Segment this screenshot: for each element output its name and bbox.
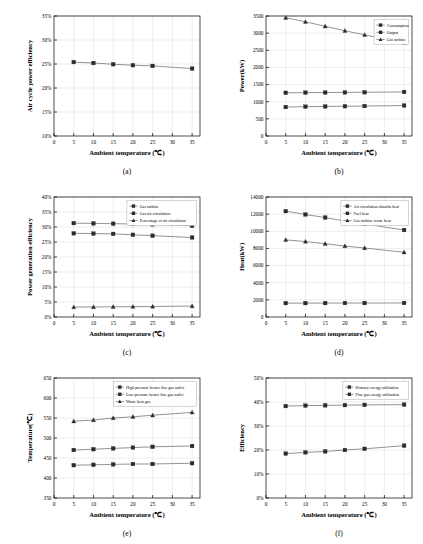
y-tick-label: 5% [44, 299, 52, 305]
x-axis: 05101520253035 [265, 314, 407, 326]
x-tick-label: 15 [323, 139, 329, 145]
y-tick-label: 30% [254, 423, 264, 429]
x-tick-label: 20 [130, 501, 136, 507]
legend-label: Waste heat gas [126, 399, 151, 404]
data-point [363, 104, 367, 108]
data-point [304, 105, 308, 109]
data-point [111, 463, 115, 467]
subplot-a: 0510152025303510%15%20%25%30%35%Ambient … [0, 0, 211, 181]
data-point [343, 448, 347, 452]
y-axis: 0500100015002000250030003500 [253, 13, 269, 139]
y-tick-label: 40% [254, 399, 264, 405]
y-tick-label: 10000 [250, 228, 264, 234]
figure-grid: 0510152025303510%15%20%25%30%35%Ambient … [0, 0, 423, 544]
x-tick-label: 15 [323, 501, 329, 507]
x-axis: 05101520253035 [265, 133, 407, 145]
y-tick-label: 1000 [253, 99, 264, 105]
legend-marker [118, 385, 121, 388]
data-point [402, 301, 406, 305]
x-tick-label: 0 [53, 320, 56, 326]
data-point [323, 91, 327, 95]
data-point [190, 67, 194, 71]
data-point [402, 104, 406, 108]
x-axis: 05101520253035 [53, 133, 195, 145]
legend: Gas turbineGas-air circulationPercentage… [127, 201, 197, 226]
legend-label: Primary energy utilization [356, 385, 399, 390]
y-tick-label: 25% [42, 239, 52, 245]
x-tick-label: 5 [284, 139, 287, 145]
y-tick-label: 1500 [253, 81, 264, 87]
x-tick-label: 0 [53, 501, 56, 507]
subplot-b: 0510152025303505001000150020002500300035… [212, 0, 423, 181]
data-point [402, 90, 406, 94]
series-3 [72, 304, 195, 309]
legend-label: Fuel heat [354, 211, 370, 216]
legend-label: Air circulation absorbs heat [354, 204, 400, 209]
subplot-d: 0510152025303502000400060008000100001200… [212, 181, 423, 362]
x-tick-label: 0 [265, 320, 268, 326]
legend: Primary energy utilizationFlue gas energ… [343, 382, 409, 400]
y-tick-label: 10% [42, 133, 52, 139]
data-point [151, 64, 155, 68]
data-point [284, 238, 288, 242]
data-point [284, 105, 288, 109]
legend: Air circulation absorbs heatFuel heatGas… [341, 201, 409, 226]
data-point [402, 228, 406, 232]
x-tick-label: 30 [170, 501, 176, 507]
legend-marker [118, 393, 121, 396]
y-tick-label: 10% [254, 471, 264, 477]
legend-marker [379, 31, 382, 34]
x-axis-title: Ambient temperature (℃) [301, 330, 376, 338]
x-tick-label: 10 [303, 139, 309, 145]
subplot-e: 05101520253035350400450500550600650High … [0, 362, 211, 543]
data-point [284, 209, 288, 213]
y-axis-title: Temperature(℃) [26, 413, 34, 462]
x-tick-label: 25 [150, 320, 156, 326]
data-point [131, 63, 135, 67]
x-tick-label: 15 [111, 139, 117, 145]
data-point [190, 444, 194, 448]
panel-caption: (d) [335, 348, 344, 357]
data-point [131, 446, 135, 450]
panel-caption: (f) [335, 529, 343, 538]
x-axis: 05101520253035 [53, 495, 195, 507]
x-tick-label: 20 [130, 320, 136, 326]
data-point [304, 404, 308, 408]
x-tick-label: 35 [401, 501, 407, 507]
legend-marker [348, 393, 351, 396]
y-tick-label: 40% [42, 194, 52, 200]
data-point [304, 213, 308, 217]
y-axis: 0%5%10%15%20%25%30%35%40% [42, 194, 57, 320]
y-tick-label: 500 [256, 116, 264, 122]
legend-label: Gas turbine waste heat [354, 218, 392, 223]
y-tick-label: 3500 [253, 13, 264, 19]
data-point [323, 301, 327, 305]
data-point [343, 91, 347, 95]
y-tick-label: 30% [42, 37, 52, 43]
x-tick-label: 25 [362, 320, 368, 326]
legend-label: Consumption [387, 23, 409, 28]
data-point [111, 447, 115, 451]
x-axis-title: Ambient temperature (℃) [89, 511, 164, 519]
y-tick-label: 450 [44, 455, 52, 461]
x-tick-label: 20 [342, 139, 348, 145]
panel-caption: (e) [123, 529, 132, 538]
y-tick-label: 30% [42, 224, 52, 230]
x-tick-label: 15 [111, 501, 117, 507]
y-tick-label: 0% [44, 314, 52, 320]
y-tick-label: 3000 [253, 30, 264, 36]
legend: High pressure heater flue gas outletLow … [113, 382, 196, 407]
data-point [72, 463, 76, 467]
data-point [111, 222, 115, 226]
plot-b: 0510152025303505001000150020002500300035… [212, 0, 423, 181]
data-point [284, 404, 288, 408]
y-tick-label: 6000 [253, 262, 264, 268]
y-axis: 0%10%20%30%40%50% [254, 375, 269, 501]
x-tick-label: 0 [265, 501, 268, 507]
data-point [190, 236, 194, 240]
x-axis: 05101520253035 [265, 495, 407, 507]
x-tick-label: 30 [382, 139, 388, 145]
x-tick-label: 5 [72, 320, 75, 326]
data-point [323, 450, 327, 454]
y-tick-label: 8000 [253, 245, 264, 251]
